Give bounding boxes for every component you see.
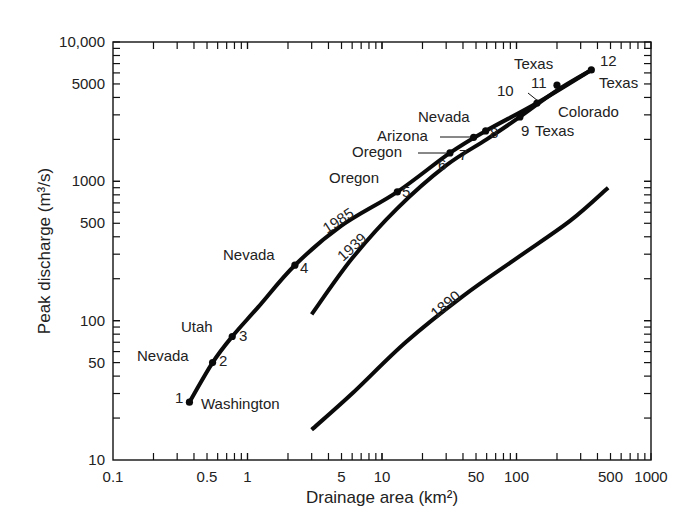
place-label-washington: Washington [201,395,280,412]
place-label-texas-12: Texas [599,74,638,91]
svg-text:10: 10 [374,468,391,485]
series-label-1890: 1890 [427,287,463,321]
place-label-arizona: Arizona [377,127,429,144]
svg-text:5: 5 [337,468,345,485]
data-point-11 [553,82,560,89]
place-label-nevada-8: Nevada [418,108,470,125]
x-axis-tick-labels: 0.10.51510501005001000 [103,468,668,485]
data-point-12 [588,66,595,73]
data-point-4 [291,262,298,269]
place-label-utah: Utah [181,318,213,335]
point-id-5: 5 [402,183,410,200]
svg-text:1000: 1000 [634,468,667,485]
series-label-1985: 1985 [319,204,356,236]
data-point-7 [470,134,477,141]
point-id-11: 11 [531,74,547,91]
point-id-2: 2 [219,352,227,369]
curve-1939 [312,70,592,314]
svg-text:100: 100 [504,468,529,485]
point-id-8: 8 [490,124,498,141]
place-label-nevada-4: Nevada [223,246,275,263]
data-point-3 [229,333,236,340]
place-label-texas-9: Texas [535,122,574,139]
point-id-9: 9 [521,122,529,139]
y-axis-label: Peak discharge (m³/s) [35,168,54,334]
svg-text:5000: 5000 [72,75,105,92]
y-axis-ticks [113,42,651,418]
x-axis-label: Drainage area (km²) [306,488,458,507]
place-label-colorado: Colorado [558,103,619,120]
svg-text:1: 1 [243,468,251,485]
place-label-oregon-5: Oregon [329,169,379,186]
svg-text:100: 100 [80,312,105,329]
svg-text:0.5: 0.5 [197,468,218,485]
point-id-1: 1 [175,389,183,406]
point-id-6: 6 [438,156,446,173]
point-id-12: 12 [600,52,617,69]
data-point-5 [394,188,401,195]
place-label-nevada-2: Nevada [137,347,189,364]
point-id-3: 3 [239,327,247,344]
point-id-10: 10 [497,82,514,99]
point-id-4: 4 [300,259,308,276]
svg-text:500: 500 [80,214,105,231]
svg-text:50: 50 [468,468,485,485]
svg-text:1000: 1000 [72,172,105,189]
svg-text:10,000: 10,000 [59,33,105,50]
data-point-9 [516,113,523,120]
data-point-6 [446,149,453,156]
data-point-1 [186,399,193,406]
curve-1890 [312,188,608,430]
svg-text:10: 10 [88,451,105,468]
chart-area: 0.10.51510501005001000 10501005001000500… [0,0,695,530]
svg-text:500: 500 [598,468,623,485]
place-label-texas-11: Texas [514,55,553,72]
svg-text:50: 50 [88,354,105,371]
curve-1985 [189,70,591,402]
point-id-7: 7 [459,146,467,163]
data-point-2 [209,359,216,366]
y-axis-tick-labels: 10501005001000500010,000 [59,33,105,468]
place-label-oregon-6: Oregon [352,143,402,160]
data-point-8 [482,127,489,134]
svg-text:0.1: 0.1 [103,468,124,485]
